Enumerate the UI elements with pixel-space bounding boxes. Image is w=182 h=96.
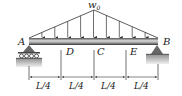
roller-2 [25, 54, 29, 58]
support-triangle-b [151, 45, 163, 54]
load-label: w0 [88, 0, 101, 11]
dim-label-3: L/4 [100, 81, 116, 91]
point-label-c: C [97, 46, 105, 57]
beam-diagram: w0 A B D C E L/4 L/4 L/4 L/4 [0, 0, 182, 96]
pin-support-b [146, 45, 169, 64]
point-label-d: D [65, 46, 74, 57]
load-arrows [42, 10, 145, 37]
point-label-a: A [17, 36, 25, 47]
roller-1 [20, 54, 24, 58]
roller-4 [35, 54, 39, 58]
point-label-e: E [129, 46, 138, 57]
dim-label-4: L/4 [133, 81, 149, 91]
roller-3 [30, 54, 34, 58]
roller-support-a [16, 45, 42, 67]
support-plate-a [18, 52, 40, 54]
point-label-b: B [162, 36, 170, 47]
dim-label-1: L/4 [35, 81, 51, 91]
ground-b [146, 54, 169, 64]
ground-a [16, 58, 42, 67]
dim-label-2: L/4 [68, 81, 84, 91]
beam [29, 38, 158, 45]
